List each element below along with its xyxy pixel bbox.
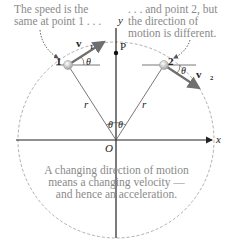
radius-line-2 (116, 65, 164, 140)
caption-left: The speed is the same at point 1 . . . (14, 3, 101, 27)
point-p-label: P (120, 40, 126, 52)
theta-label-origin-left: θ (108, 119, 113, 130)
caption-left-line-1: The speed is the (14, 3, 101, 15)
theta-arc-2 (177, 65, 180, 73)
theta-arc-1 (81, 57, 84, 65)
caption-bottom: A changing direction of motion means a c… (0, 164, 233, 200)
caption-bottom-line-3: and hence an acceleration. (0, 188, 233, 200)
theta-label-2: θ (181, 65, 186, 76)
y-axis-label: y (118, 14, 123, 26)
caption-bottom-line-2: means a changing velocity — (0, 176, 233, 188)
caption-bottom-line-1: A changing direction of motion (0, 164, 233, 176)
radius-label-right: r (142, 98, 146, 110)
velocity-label-1: v⃗₁ (76, 37, 93, 49)
caption-right-line-2: the direction of (128, 15, 217, 27)
caption-right: . . . and point 2, but the direction of … (128, 3, 217, 39)
caption-right-line-1: . . . and point 2, but (128, 3, 217, 15)
velocity-label-2: v⃗₂ (196, 68, 213, 80)
callout-arrow-right (174, 40, 190, 58)
radius-label-left: r (84, 98, 88, 110)
x-axis-label: x (216, 133, 221, 145)
theta-label-origin-right: θ (118, 119, 123, 130)
theta-label-1: θ (86, 56, 91, 67)
caption-right-line-3: motion is different. (128, 27, 217, 39)
caption-left-line-2: same at point 1 . . . (14, 15, 101, 27)
origin-label: O (105, 142, 113, 154)
point-p-dot (114, 51, 118, 55)
point-2-label: 2 (168, 55, 174, 67)
callout-arrow-left (40, 30, 58, 58)
particle-at-point-1 (64, 61, 73, 70)
point-1-label: 1 (56, 55, 62, 67)
